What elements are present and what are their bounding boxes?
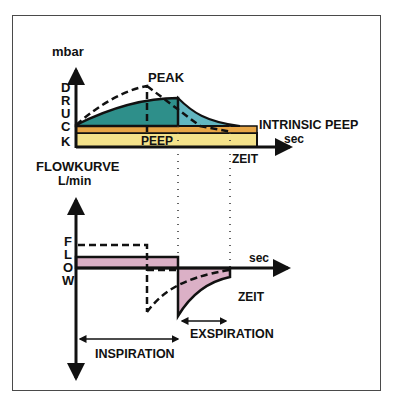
flow-chart: FLOWKURVE L/min F L O W sec ZEIT EXSPIRA… xyxy=(36,159,288,378)
inspiration-flow-area xyxy=(76,257,178,268)
druck-letter-k: K xyxy=(61,134,71,149)
ventilation-diagram: mbar D R U C K PEAK PEEP INTRINSIC PEEP … xyxy=(0,0,395,408)
druck-letter-c: C xyxy=(61,119,71,134)
flow-x-label: ZEIT xyxy=(238,290,265,304)
exspiration-pressure-area xyxy=(178,98,240,126)
flow-y-unit: L/min xyxy=(58,174,91,188)
pressure-x-unit: sec xyxy=(284,132,304,146)
exspiration-label: EXSPIRATION xyxy=(190,327,274,341)
flow-x-unit: sec xyxy=(249,251,269,265)
flow-chart-title: FLOWKURVE xyxy=(36,159,120,174)
pressure-x-label: ZEIT xyxy=(232,152,259,166)
pressure-y-unit: mbar xyxy=(52,44,84,59)
intrinsic-peep-label: INTRINSIC PEEP xyxy=(259,118,358,132)
flow-letter-w: W xyxy=(62,273,75,288)
inspiration-label: INSPIRATION xyxy=(95,347,175,361)
peep-label: PEEP xyxy=(141,134,173,148)
inspiration-pressure-area xyxy=(76,98,178,126)
pressure-chart: mbar D R U C K PEAK PEEP INTRINSIC PEEP … xyxy=(52,44,358,268)
peak-label: PEAK xyxy=(148,70,185,85)
